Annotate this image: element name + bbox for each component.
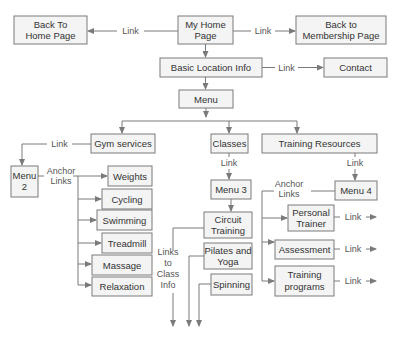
node-label: Home Page [25, 30, 75, 41]
node-menu[interactable]: Menu [179, 90, 233, 108]
node-label: Menu 4 [340, 185, 372, 196]
site-map-diagram: Back To Home Page My Home Page Back to M… [0, 0, 393, 337]
node-back-to-home-page[interactable]: Back To Home Page [14, 16, 87, 44]
node-spinning[interactable]: Spinning [211, 274, 252, 295]
node-label: Menu [194, 94, 218, 105]
node-menu-4[interactable]: Menu 4 [335, 181, 377, 200]
edge-label-link: Link [255, 26, 272, 36]
node-back-to-membership-page[interactable]: Back to Membership Page [296, 16, 386, 44]
edge-menu-fanout [122, 108, 297, 133]
edge-label-class-info: Class [157, 269, 180, 279]
node-label: Menu [13, 170, 37, 181]
node-training-programs[interactable]: Training programs [275, 266, 334, 296]
node-my-home-page[interactable]: My Home Page [178, 16, 233, 44]
edge-label-anchor: Links [50, 176, 72, 186]
edge-home-to-back-home: Link [88, 26, 178, 36]
node-training-resources[interactable]: Training Resources [262, 134, 377, 153]
node-classes[interactable]: Classes [211, 134, 248, 153]
node-label: My Home [185, 19, 226, 30]
edge-label-class-info: Info [160, 280, 175, 290]
node-label: Page [194, 30, 216, 41]
edge-links-to-class-info: Links to Class Info [157, 228, 211, 326]
node-circuit-training[interactable]: Circuit Training [204, 212, 252, 238]
node-label: Training [288, 269, 322, 280]
edge-label-link: Link [347, 158, 364, 168]
edge-gym-to-menu2: Link [22, 139, 91, 165]
node-label: Relaxation [100, 281, 145, 292]
edge-home-to-membership: Link [233, 26, 295, 36]
node-massage[interactable]: Massage [92, 255, 152, 275]
node-treadmill[interactable]: Treadmill [102, 233, 152, 253]
edge-label-class-info: to [164, 258, 172, 268]
edge-label-anchor: Anchor [47, 166, 76, 176]
edge-assessment-link: Link [334, 244, 376, 254]
node-label: Assessment [279, 244, 331, 255]
node-label: Classes [213, 138, 247, 149]
node-label: Back To [34, 19, 68, 30]
node-label: Membership Page [302, 30, 379, 41]
edge-label-link: Link [51, 139, 68, 149]
edge-personal-trainer-link: Link [334, 212, 376, 222]
node-label: Weights [113, 171, 147, 182]
node-menu-2[interactable]: Menu 2 [11, 166, 38, 197]
node-label: programs [284, 281, 324, 292]
edge-label-link: Link [345, 212, 362, 222]
edge-label-link: Link [221, 158, 238, 168]
node-label: Circuit [215, 214, 242, 225]
edge-label-anchor: Anchor [275, 179, 304, 189]
node-label: Back to [325, 19, 357, 30]
edge-classes-to-menu3: Link [221, 153, 238, 179]
edge-label-link: Link [345, 276, 362, 286]
edge-label-anchor: Links [278, 189, 300, 199]
node-weights[interactable]: Weights [108, 166, 152, 186]
node-label: Trainer [296, 218, 326, 229]
node-label: Contact [339, 62, 372, 73]
edge-training-programs-link: Link [334, 276, 376, 286]
edge-location-to-contact: Link [262, 63, 323, 73]
edge-label-class-info: Links [157, 247, 179, 257]
edge-label-link: Link [345, 244, 362, 254]
node-menu-3[interactable]: Menu 3 [211, 180, 251, 199]
node-label: Basic Location Info [171, 62, 251, 73]
node-label: Swimming [103, 215, 147, 226]
node-label: Training Resources [278, 138, 360, 149]
node-relaxation[interactable]: Relaxation [92, 277, 152, 296]
node-label: Yoga [217, 256, 239, 267]
node-assessment[interactable]: Assessment [275, 240, 334, 259]
edge-training-to-menu4: Link [347, 153, 364, 180]
node-contact[interactable]: Contact [324, 58, 387, 77]
node-label: Gym services [94, 138, 152, 149]
node-label: Menu 3 [215, 184, 247, 195]
node-label: Personal [292, 207, 330, 218]
node-pilates-and-yoga[interactable]: Pilates and Yoga [204, 243, 252, 269]
node-label: Training [211, 225, 245, 236]
node-label: Treadmill [108, 238, 147, 249]
edge-label-link: Link [122, 26, 139, 36]
node-label: Pilates and [204, 245, 251, 256]
node-gym-services[interactable]: Gym services [91, 134, 155, 153]
node-label: Massage [103, 260, 142, 271]
node-label: Cycling [111, 194, 142, 205]
node-personal-trainer[interactable]: Personal Trainer [288, 205, 334, 231]
node-label: 2 [22, 181, 27, 192]
node-basic-location-info[interactable]: Basic Location Info [160, 58, 262, 77]
node-cycling[interactable]: Cycling [102, 189, 152, 209]
node-swimming[interactable]: Swimming [97, 210, 152, 230]
edge-label-link: Link [278, 63, 295, 73]
node-label: Spinning [213, 279, 250, 290]
